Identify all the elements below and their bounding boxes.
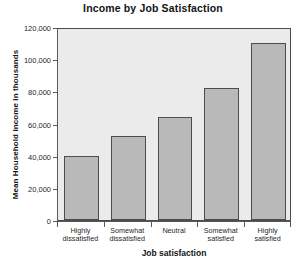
x-axis-category-label: Somewhatsatisfied (197, 227, 244, 243)
x-axis-title: Job satisfaction (57, 248, 291, 258)
bar (158, 117, 193, 220)
y-axis-tick-label: 20,000 (28, 184, 51, 193)
y-axis-tick-label: 120,000 (24, 24, 51, 33)
y-axis-tick-label: 0 (47, 217, 51, 226)
x-axis-label-line: satisfied (244, 235, 291, 243)
y-axis-tick (53, 92, 57, 93)
x-axis-label-line: Neutral (151, 227, 198, 235)
x-axis-category-label: Highlydissatisfied (57, 227, 104, 243)
x-axis-category-label: Neutral (151, 227, 198, 235)
y-axis-line (57, 28, 58, 221)
y-axis-tick-label: 40,000 (28, 152, 51, 161)
bars-layer (58, 29, 290, 220)
y-axis-tick (53, 60, 57, 61)
y-axis-tick-label: 100,000 (24, 56, 51, 65)
y-axis-title-text: Mean Household income in thousands (11, 50, 20, 200)
y-axis-tick (53, 157, 57, 158)
chart-title: Income by Job Satisfaction (0, 2, 306, 14)
bar (204, 88, 239, 220)
bar (64, 156, 99, 220)
y-axis-tick (53, 28, 57, 29)
y-axis-tick-label: 80,000 (28, 88, 51, 97)
y-axis-tick-label: 60,000 (28, 120, 51, 129)
x-axis-label-line: dissatisfied (57, 235, 104, 243)
bar (111, 136, 146, 220)
y-axis-title: Mean Household income in thousands (9, 28, 22, 221)
bar-chart: Income by Job Satisfaction Mean Househol… (0, 0, 306, 268)
x-axis-line (57, 221, 291, 222)
x-axis-label-line: dissatisfied (104, 235, 151, 243)
plot-area (57, 28, 291, 221)
bar (251, 43, 286, 220)
y-axis-tick (53, 189, 57, 190)
y-axis-tick (53, 125, 57, 126)
x-axis-category-label: Highlysatisfied (244, 227, 291, 243)
x-axis-label-line: satisfied (197, 235, 244, 243)
x-axis-category-label: Somewhatdissatisfied (104, 227, 151, 243)
